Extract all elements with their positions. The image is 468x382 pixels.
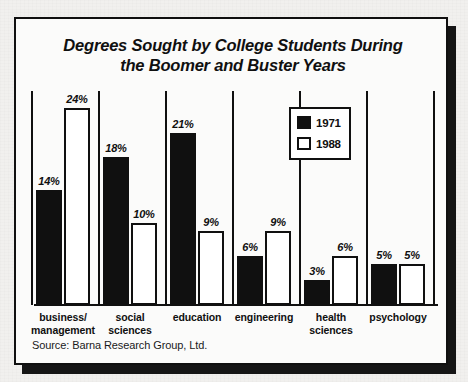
plot-area: 14%24%business/ management18%10%social s…: [16, 19, 450, 367]
bar-value-label: 21%: [163, 118, 203, 130]
legend-swatch-filled-square-icon: [297, 116, 311, 129]
group-separator: [232, 91, 234, 305]
bar-1971-2: [103, 157, 129, 305]
bar-1971-1: [36, 190, 62, 305]
chart-legend: 1971 1988: [289, 107, 351, 160]
bar-value-label: 24%: [57, 93, 97, 105]
bar-1988-6: [399, 264, 425, 305]
bar-1988-5: [332, 256, 358, 305]
bar-value-label: 9%: [191, 216, 231, 228]
category-label: psychology: [359, 311, 437, 324]
bar-value-label: 3%: [297, 265, 337, 277]
bar-1971-6: [371, 264, 397, 305]
legend-entry-1988: 1988: [297, 137, 341, 150]
bar-1988-3: [198, 231, 224, 305]
bar-1971-4: [237, 256, 263, 305]
bar-value-label: 9%: [258, 216, 298, 228]
bar-value-label: 6%: [325, 241, 365, 253]
bar-value-label: 5%: [392, 249, 432, 261]
source-note: Source: Barna Research Group, Ltd.: [32, 339, 207, 351]
legend-label-1988: 1988: [316, 138, 341, 150]
bar-value-label: 14%: [29, 175, 69, 187]
chart-figure-panel: Degrees Sought by College Students Durin…: [14, 17, 448, 365]
bar-1988-2: [131, 223, 157, 305]
group-separator: [98, 91, 100, 305]
legend-entry-1971: 1971: [297, 116, 341, 129]
bar-1988-1: [64, 108, 90, 305]
bar-1988-4: [265, 231, 291, 305]
legend-swatch-hollow-square-icon: [297, 137, 311, 150]
group-separator: [31, 91, 33, 305]
bar-value-label: 18%: [96, 142, 136, 154]
group-separator: [366, 91, 368, 305]
bar-value-label: 10%: [124, 208, 164, 220]
legend-label-1971: 1971: [316, 117, 341, 129]
group-separator: [433, 91, 435, 305]
bar-1971-5: [304, 280, 330, 305]
bar-value-label: 6%: [230, 241, 270, 253]
